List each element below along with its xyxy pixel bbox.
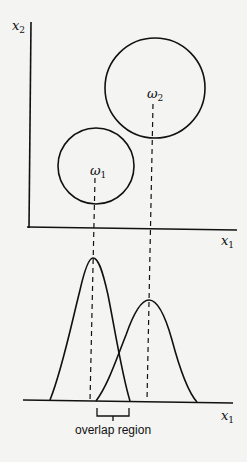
x1-axis-top [27,227,237,230]
omega1-label: ω1 [90,163,106,180]
overlap-bracket [97,408,129,421]
x1-axis-bottom [23,400,233,403]
omega2-projection-line [147,104,153,401]
omega2-label: ω2 [147,86,163,103]
overlap-region-label: overlap region [75,423,151,437]
omega1-projection-line [90,178,95,401]
x2-axis [29,22,31,228]
x2-axis-label: x2 [12,18,25,35]
class-overlap-diagram: x2 x1 ω1 ω2 x1 overlap region [0,0,247,462]
x1-axis-label-bottom: x1 [221,408,234,425]
x1-axis-label-top: x1 [221,233,234,250]
